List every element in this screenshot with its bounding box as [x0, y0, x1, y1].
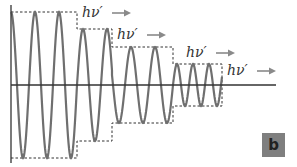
- arrowhead-icon: [159, 32, 166, 39]
- arrowhead-icon: [124, 10, 131, 17]
- photon-label-4: hν′: [227, 63, 248, 77]
- photon-label-1: hν′: [82, 5, 103, 19]
- arrowhead-icon: [269, 68, 276, 75]
- photon-label-3: hν′: [186, 45, 207, 59]
- photon-label-2: hν′: [117, 27, 138, 41]
- wave-diagram: [0, 0, 297, 167]
- arrowhead-icon: [228, 50, 235, 57]
- panel-label-badge: b: [262, 133, 285, 157]
